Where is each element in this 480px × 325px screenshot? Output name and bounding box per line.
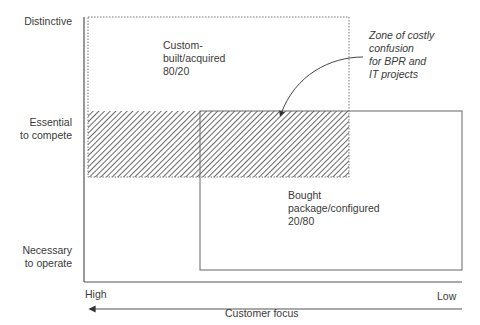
y-label-necessary: Necessary to operate xyxy=(0,244,72,270)
callout-arrow xyxy=(281,57,363,114)
confusion-zone-label: Zone of costly confusion for BPR and IT … xyxy=(369,29,434,81)
custom-built-label: Custom- built/acquired 80/20 xyxy=(163,39,225,78)
x-label-high: High xyxy=(85,288,107,301)
y-label-distinctive: Distinctive xyxy=(0,15,72,28)
confusion-zone-hatch xyxy=(88,111,349,177)
x-label-low: Low xyxy=(437,290,456,303)
y-label-essential: Essential to compete xyxy=(0,116,72,142)
package-label: Bought package/configured 20/80 xyxy=(288,189,380,228)
x-axis-title: Customer focus xyxy=(225,307,299,320)
